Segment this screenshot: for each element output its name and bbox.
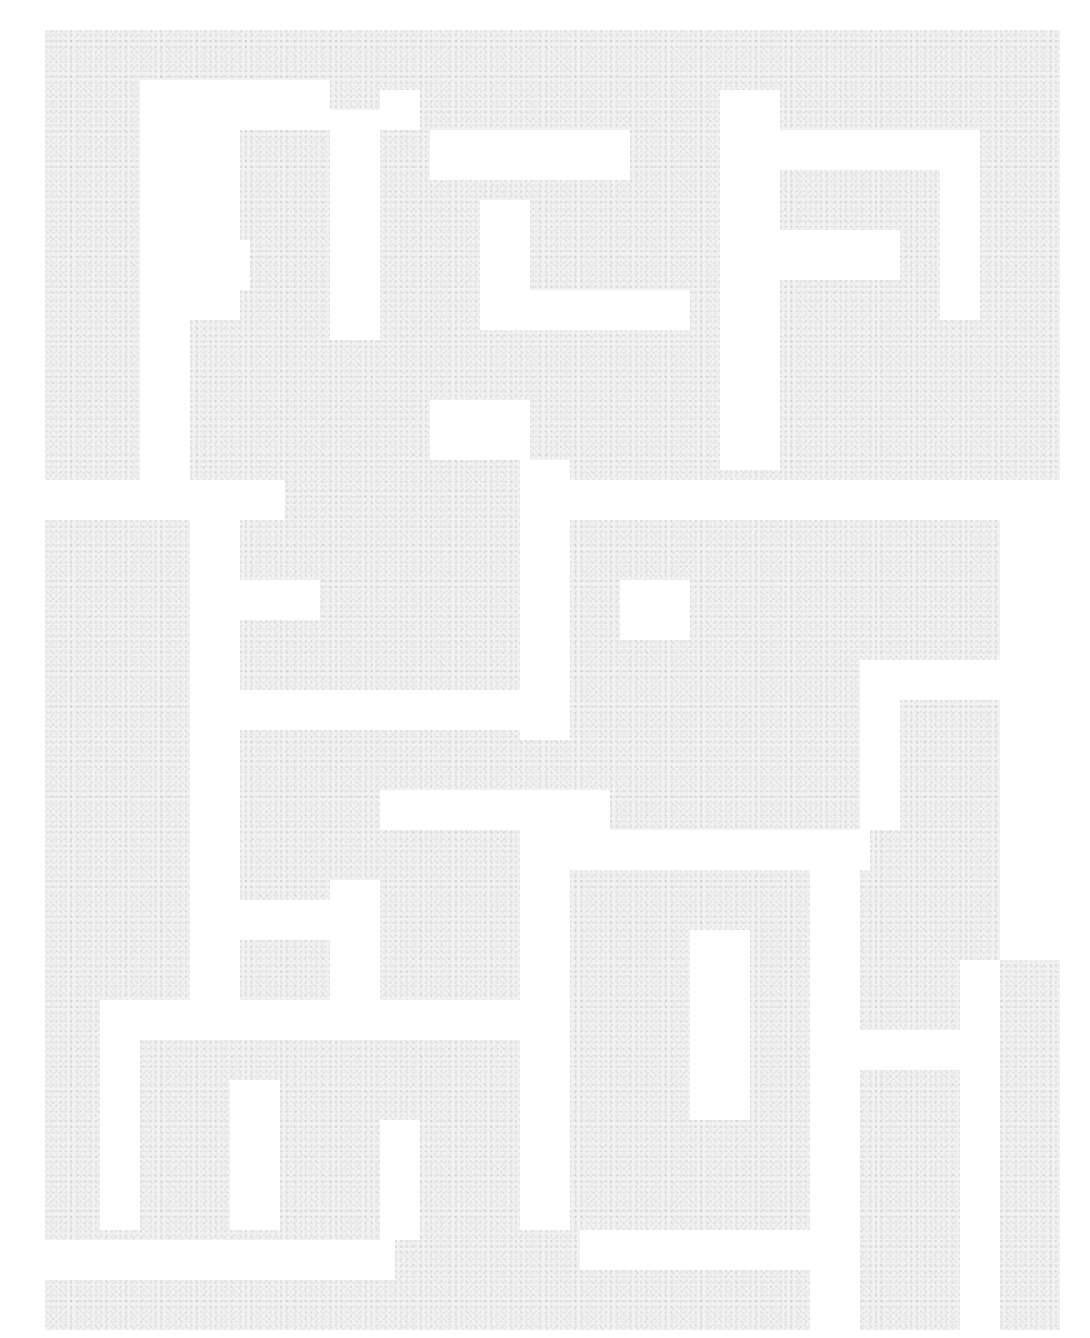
maze-corridor [960, 960, 1000, 1330]
maze-corridor [100, 1040, 140, 1230]
maze-corridor [45, 1240, 395, 1280]
maze-corridor [1000, 480, 1060, 960]
maze-corridor [860, 700, 900, 830]
maze-corridor [520, 290, 690, 330]
maze-corridor [140, 80, 330, 130]
maze-corridor [430, 400, 530, 460]
outer-margin [1060, 0, 1090, 1338]
maze-corridor [580, 1230, 810, 1270]
maze-corridor [380, 90, 420, 130]
maze-corridor [780, 230, 900, 280]
maze-corridor [230, 1080, 280, 1230]
maze-corridor [560, 480, 1000, 520]
maze-corridor [240, 580, 320, 620]
maze-corridor [520, 830, 570, 1230]
maze-corridor [430, 130, 630, 180]
maze-corridor [240, 900, 330, 940]
maze-corridor [620, 580, 690, 640]
maze-corridor [860, 660, 1000, 700]
maze-corridor [480, 200, 530, 330]
maze-corridor [690, 930, 750, 1120]
maze-corridor [45, 480, 285, 520]
maze-corridor [720, 90, 780, 470]
maze-corridor [810, 870, 860, 1330]
maze-corridor [380, 790, 610, 830]
maze-corridor [190, 490, 240, 1000]
maze-corridor [380, 1120, 420, 1240]
maze-corridor [190, 130, 240, 320]
maze-corridor [570, 830, 870, 870]
maze-corridor [330, 110, 380, 340]
maze-texture-canvas [0, 0, 1090, 1338]
maze-corridor [780, 130, 980, 170]
maze-corridor [100, 1000, 520, 1040]
